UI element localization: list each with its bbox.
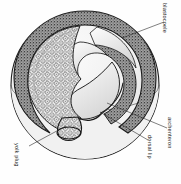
- label-blastocoele: blastocoele: [161, 3, 167, 33]
- label-archenteron: archenteron: [166, 117, 172, 149]
- label-yolk-plug: yolk plug: [13, 143, 19, 166]
- gastrula-diagram: blastocoele archenteron dorsal lip yolk …: [0, 0, 181, 184]
- gastrula-illustration: [0, 0, 181, 184]
- label-dorsal-lip: dorsal lip: [146, 135, 152, 159]
